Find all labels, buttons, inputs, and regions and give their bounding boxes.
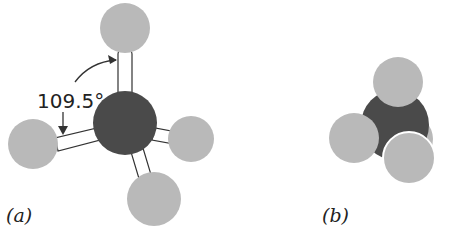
panel-b-label: (b) bbox=[322, 204, 349, 226]
hydrogen-atom-top bbox=[100, 3, 150, 53]
arrowhead-top-icon bbox=[108, 55, 117, 64]
ball-and-stick-model bbox=[8, 3, 214, 226]
hydrogen-atom-bottom bbox=[127, 172, 181, 226]
panel-a-label: (a) bbox=[6, 204, 32, 226]
arrowhead-left-icon bbox=[58, 126, 68, 135]
sf-hydrogen-top bbox=[373, 57, 423, 107]
bond-angle-label: 109.5° bbox=[37, 89, 104, 113]
hydrogen-atom-left bbox=[8, 119, 58, 169]
space-filling-model bbox=[329, 57, 435, 184]
sf-hydrogen-front bbox=[383, 132, 435, 184]
hydrogen-atom-right bbox=[168, 116, 214, 162]
methane-figure bbox=[0, 0, 454, 245]
sf-hydrogen-left bbox=[329, 113, 379, 163]
